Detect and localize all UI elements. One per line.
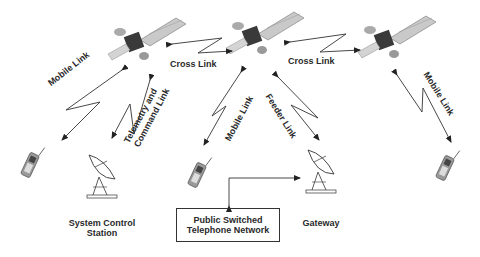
gateway-label: Gateway	[296, 218, 346, 228]
satellite-2-icon	[226, 12, 304, 54]
mobile-phone-2-icon	[187, 153, 211, 188]
satellite-3-icon	[358, 16, 436, 58]
system-control-station-label: System Control Station	[62, 218, 142, 238]
mobile-phone-3-icon	[435, 146, 459, 181]
cross-link-1-label: Cross Link	[170, 59, 217, 69]
cross-link-2-label: Cross Link	[288, 56, 335, 66]
mobile-phone-1-icon	[20, 143, 44, 178]
system-control-dish-icon	[87, 155, 117, 198]
pstn-box: Public Switched Telephone Network	[176, 208, 280, 242]
gateway-dish-icon	[306, 150, 336, 193]
satellite-1-icon	[108, 18, 186, 60]
satellite-network-diagram: Cross Link Cross Link Mobile Link Teleme…	[0, 0, 480, 257]
